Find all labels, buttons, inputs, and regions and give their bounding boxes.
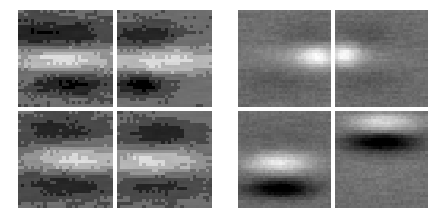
filter-tile-8 xyxy=(335,111,428,208)
filter-image-2 xyxy=(117,10,212,107)
filter-tile-4 xyxy=(117,111,212,208)
filter-image-7 xyxy=(238,111,331,208)
filter-tile-7 xyxy=(238,111,331,208)
panel-group-left xyxy=(18,10,212,208)
filter-tile-2 xyxy=(117,10,212,107)
filter-image-1 xyxy=(18,10,113,107)
filter-tile-3 xyxy=(18,111,113,208)
figure-canvas xyxy=(0,0,443,219)
filter-tile-6 xyxy=(335,10,428,107)
filter-tile-5 xyxy=(238,10,331,107)
filter-image-8 xyxy=(335,111,428,208)
panel-group-right xyxy=(238,10,428,208)
filter-image-3 xyxy=(18,111,113,208)
filter-image-4 xyxy=(117,111,212,208)
filter-image-6 xyxy=(335,10,428,107)
filter-tile-1 xyxy=(18,10,113,107)
filter-image-5 xyxy=(238,10,331,107)
